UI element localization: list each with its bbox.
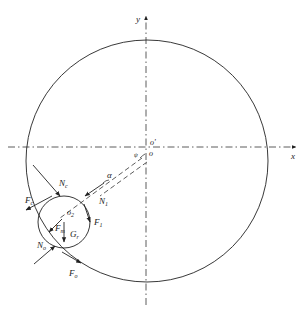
center-line-1 — [60, 158, 142, 218]
x-axis-label: x — [290, 151, 295, 161]
N-c-arrow — [33, 165, 60, 196]
F-1-label: F1 — [93, 217, 103, 228]
G-r-label: Gr — [70, 229, 80, 240]
alpha-label: α — [107, 170, 112, 180]
o-prime-label: o' — [150, 138, 156, 147]
N-1-label: N1 — [98, 196, 108, 207]
psi-label: ψ — [134, 152, 138, 158]
o-label: o — [149, 149, 153, 158]
F-1-arrow — [84, 204, 90, 222]
N-1-arrow — [85, 183, 104, 196]
F-o-label: Fo — [68, 268, 78, 279]
F-c-label: Fc — [24, 195, 34, 206]
F-o-arrow — [62, 252, 81, 263]
psi-arc — [140, 154, 145, 158]
y-axis-label: y — [135, 14, 140, 24]
N-c-label: Nc — [58, 178, 68, 189]
outer-drum-circle — [26, 40, 268, 282]
N-o-label: No — [36, 240, 46, 251]
o2-label: o2 — [67, 208, 74, 218]
force-diagram: y x o' o ψ α o2 Nc Fc N1 F1 Fm Gr No Fo — [0, 0, 307, 320]
